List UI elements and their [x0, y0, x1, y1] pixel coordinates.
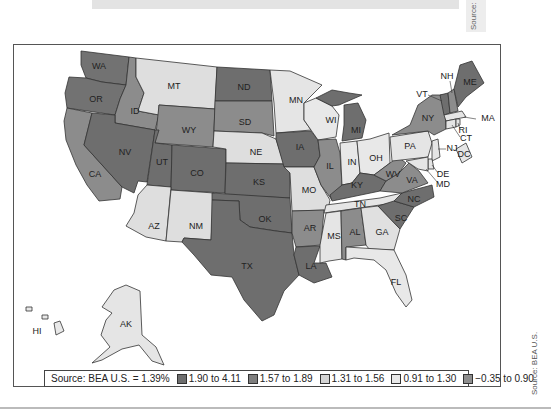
label-nd: ND: [238, 82, 251, 92]
label-nh: NH: [441, 71, 454, 81]
label-ca: CA: [89, 169, 102, 179]
label-ny: NY: [422, 113, 435, 123]
label-ky: KY: [351, 180, 363, 190]
legend-swatch-2: [248, 374, 258, 384]
label-nm: NM: [189, 221, 203, 231]
bottom-rule: [0, 407, 551, 409]
state-ny: [392, 95, 446, 135]
label-al: AL: [349, 227, 360, 237]
state-ct: [446, 119, 456, 129]
label-ok: OK: [258, 214, 271, 224]
legend-item-3: 1.31 to 1.56: [320, 373, 385, 384]
label-me: ME: [463, 77, 477, 87]
map-frame: WA OR ID MT WY CA NV UT CO AZ NM ND SD N…: [13, 44, 501, 387]
legend-item-1: 1.90 to 4.11: [177, 373, 241, 384]
legend-swatch-1: [177, 374, 187, 384]
label-mn: MN: [289, 95, 303, 105]
label-ma: MA: [481, 113, 495, 123]
legend: Source: BEA U.S. = 1.39% 1.90 to 4.11 1.…: [44, 370, 469, 387]
label-ut: UT: [156, 157, 168, 167]
label-ne: NE: [250, 147, 263, 157]
label-oh: OH: [369, 153, 383, 163]
label-tn: TN: [354, 199, 366, 209]
label-or: OR: [89, 94, 103, 104]
label-de: DE: [437, 169, 450, 179]
label-nc: NC: [408, 194, 421, 204]
side-source-top: Source:: [466, 0, 486, 32]
legend-swatch-3: [320, 374, 330, 384]
label-hi: HI: [33, 326, 42, 336]
label-vt: VT: [416, 89, 428, 99]
label-ia: IA: [296, 142, 305, 152]
state-hi-2: [42, 315, 48, 319]
label-tx: TX: [241, 261, 253, 271]
legend-swatch-5: [463, 374, 473, 384]
side-source-bottom: Source: BEA U.S.: [530, 332, 539, 395]
label-sd: SD: [239, 117, 252, 127]
label-sc: SC: [395, 213, 408, 223]
legend-source: Source: BEA U.S. = 1.39%: [51, 373, 170, 384]
label-fl: FL: [391, 277, 402, 287]
label-ak: AK: [120, 319, 132, 329]
label-mt: MT: [168, 81, 181, 91]
label-il: IL: [326, 161, 334, 171]
legend-label-2: 1.57 to 1.89: [260, 373, 313, 384]
label-va: VA: [406, 175, 417, 185]
label-ct: CT: [460, 133, 472, 143]
state-hi-3: [26, 307, 32, 311]
label-pa: PA: [404, 141, 415, 151]
label-wv: WV: [386, 169, 401, 179]
label-la: LA: [305, 261, 316, 271]
state-fl: [346, 247, 412, 307]
label-co: CO: [190, 168, 204, 178]
legend-item-2: 1.57 to 1.89: [248, 373, 313, 384]
label-az: AZ: [148, 221, 160, 231]
label-wi: WI: [326, 115, 337, 125]
label-ar: AR: [304, 223, 317, 233]
legend-label-5: −0.35 to 0.90: [475, 373, 534, 384]
legend-swatch-4: [391, 374, 401, 384]
leader-ma: [464, 117, 476, 119]
label-ks: KS: [253, 177, 265, 187]
state-nm: [166, 190, 214, 242]
us-map: WA OR ID MT WY CA NV UT CO AZ NM ND SD N…: [14, 45, 502, 388]
legend-item-4: 0.91 to 1.30: [391, 373, 456, 384]
legend-label-1: 1.90 to 4.11: [189, 373, 241, 384]
label-md: MD: [436, 179, 450, 189]
label-in: IN: [348, 157, 357, 167]
state-az: [126, 185, 171, 241]
top-page-band: [92, 0, 459, 9]
label-nj: NJ: [447, 143, 458, 153]
label-wy: WY: [182, 125, 197, 135]
state-hi: [54, 321, 64, 335]
state-mi: [342, 103, 366, 141]
label-nv: NV: [119, 147, 132, 157]
state-nj: [432, 139, 440, 161]
side-source-top-text: Source:: [469, 0, 478, 30]
legend-label-3: 1.31 to 1.56: [332, 373, 385, 384]
label-ga: GA: [375, 227, 388, 237]
legend-item-5: −0.35 to 0.90: [463, 373, 534, 384]
label-mo: MO: [302, 185, 317, 195]
label-wa: WA: [92, 61, 106, 71]
legend-label-4: 0.91 to 1.30: [403, 373, 456, 384]
label-id: ID: [131, 106, 141, 116]
label-mi: MI: [351, 125, 361, 135]
label-ms: MS: [327, 231, 341, 241]
label-dc: DC: [458, 149, 471, 159]
